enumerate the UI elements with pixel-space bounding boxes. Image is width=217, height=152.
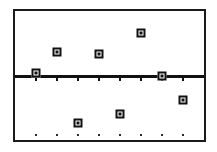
baseline-dot bbox=[161, 134, 163, 136]
data-point-marker bbox=[116, 110, 125, 119]
baseline-dot bbox=[140, 134, 142, 136]
data-point-marker bbox=[53, 48, 62, 57]
x-axis-tick bbox=[77, 78, 79, 81]
x-axis-tick bbox=[98, 78, 100, 81]
x-axis-tick bbox=[119, 78, 121, 81]
baseline-dot bbox=[35, 134, 37, 136]
baseline-dot bbox=[119, 134, 121, 136]
chart-description: Scatter plot of eight square markers dis… bbox=[0, 0, 1, 1]
data-point-marker bbox=[137, 28, 146, 37]
data-point-marker bbox=[74, 118, 83, 127]
data-point-marker bbox=[158, 71, 167, 80]
baseline-dot bbox=[56, 134, 58, 136]
x-axis-tick bbox=[182, 78, 184, 81]
data-point-marker bbox=[179, 96, 188, 105]
scatter-chart: Scatter plot of eight square markers dis… bbox=[0, 0, 217, 152]
x-axis-tick bbox=[56, 78, 58, 81]
baseline-dot bbox=[77, 134, 79, 136]
x-axis-tick bbox=[35, 78, 37, 81]
data-point-marker bbox=[95, 50, 104, 59]
x-axis-tick bbox=[140, 78, 142, 81]
zero-baseline-axis bbox=[15, 75, 204, 78]
plot-area bbox=[15, 11, 204, 140]
baseline-dot bbox=[98, 134, 100, 136]
baseline-dot bbox=[182, 134, 184, 136]
data-point-marker bbox=[32, 68, 41, 77]
plot-frame bbox=[13, 9, 206, 142]
